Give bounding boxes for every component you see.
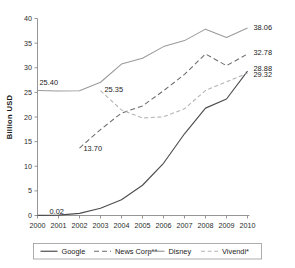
x-tick-label: 2009 bbox=[219, 221, 235, 230]
y-axis-title-text: Billion USD bbox=[5, 94, 14, 139]
data-value-label: 32.78 bbox=[254, 48, 273, 57]
data-value-label: 25.35 bbox=[105, 85, 124, 94]
x-tick-label: 2000 bbox=[30, 221, 46, 230]
x-axis-ticks: 2000200120022003200420052006200720082009… bbox=[30, 216, 256, 230]
x-tick-label: 2003 bbox=[93, 221, 109, 230]
data-series-group bbox=[38, 28, 248, 215]
legend-label-vivendi: Vivendi* bbox=[222, 247, 249, 256]
y-axis-ticks: 0510152025303540 bbox=[24, 14, 38, 220]
y-tick-label: 15 bbox=[24, 137, 32, 146]
x-tick-label: 2004 bbox=[114, 221, 130, 230]
x-tick-label: 2010 bbox=[240, 221, 256, 230]
chart-axes bbox=[38, 19, 250, 216]
y-axis-title: Billion USD bbox=[5, 94, 14, 139]
data-value-label: 13.70 bbox=[84, 144, 103, 153]
data-value-label: 25.40 bbox=[40, 78, 59, 87]
data-point-labels: 25.400.0213.7025.3538.0632.7828.8829.32 bbox=[40, 23, 273, 216]
legend-label-disney: Disney bbox=[169, 247, 192, 256]
x-tick-label: 2005 bbox=[135, 221, 151, 230]
y-tick-label: 30 bbox=[24, 63, 32, 72]
x-tick-label: 2002 bbox=[72, 221, 88, 230]
x-tick-label: 2006 bbox=[156, 221, 172, 230]
series-line-vivendi bbox=[101, 73, 248, 118]
x-tick-label: 2007 bbox=[177, 221, 193, 230]
line-chart: 0510152025303540 20002001200220032004200… bbox=[0, 0, 295, 268]
chart-legend: GoogleNews Corp**DisneyVivendi* bbox=[34, 244, 262, 260]
y-tick-label: 20 bbox=[24, 113, 32, 122]
y-tick-label: 5 bbox=[28, 186, 32, 195]
series-line-google bbox=[38, 71, 248, 215]
x-tick-label: 2001 bbox=[51, 221, 67, 230]
data-value-label: 0.02 bbox=[50, 207, 64, 216]
y-tick-label: 25 bbox=[24, 88, 32, 97]
y-tick-label: 0 bbox=[28, 211, 32, 220]
x-tick-label: 2008 bbox=[198, 221, 214, 230]
y-tick-label: 40 bbox=[24, 14, 32, 23]
y-tick-label: 10 bbox=[24, 162, 32, 171]
chart-container: 0510152025303540 20002001200220032004200… bbox=[0, 0, 295, 268]
data-value-label: 29.32 bbox=[254, 70, 273, 79]
legend-label-google: Google bbox=[62, 247, 86, 256]
data-value-label: 38.06 bbox=[254, 23, 273, 32]
y-tick-label: 35 bbox=[24, 39, 32, 48]
